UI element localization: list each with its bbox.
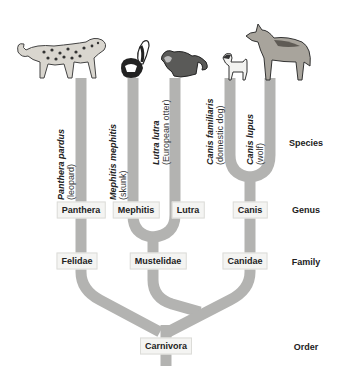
species-label-dog: Canis familiaris (domestic dog) [205, 98, 225, 165]
genus-box-lutra: Lutra [172, 202, 205, 219]
species-scientific-name: Lutra lutra [151, 99, 161, 165]
wolf-icon [244, 22, 316, 84]
leopard-icon [14, 34, 114, 82]
skunk-icon [117, 38, 153, 80]
family-box-canidae: Canidae [222, 253, 267, 270]
family-box-mustelidae: Mustelidae [130, 253, 187, 270]
species-common-name: (European otter) [161, 99, 171, 165]
otter-icon [158, 48, 212, 80]
genus-box-canis: Canis [233, 202, 268, 219]
species-common-name: (leopard) [66, 129, 76, 200]
rank-label-order: Order [294, 342, 319, 352]
species-common-name: (wolf) [255, 114, 265, 165]
species-label-skunk: Mephitis mephitis (skunk) [108, 124, 128, 200]
species-label-leopard: Panthera pardus (leopard) [56, 129, 76, 200]
rank-label-family: Family [292, 257, 321, 267]
rank-label-genus: Genus [292, 205, 320, 215]
species-label-wolf: Canis lupus (wolf) [245, 114, 265, 165]
species-common-name: (domestic dog) [215, 98, 225, 165]
species-scientific-name: Mephitis mephitis [108, 124, 118, 200]
species-scientific-name: Canis familiaris [205, 98, 215, 165]
species-label-otter: Lutra lutra (European otter) [151, 99, 171, 165]
order-box-carnivora: Carnivora [140, 338, 192, 355]
species-common-name: (skunk) [118, 124, 128, 200]
species-scientific-name: Panthera pardus [56, 129, 66, 200]
genus-box-panthera: Panthera [57, 202, 106, 219]
rank-label-species: Species [289, 138, 323, 148]
branch-mustelidae [153, 237, 200, 312]
family-box-felidae: Felidae [56, 253, 97, 270]
species-scientific-name: Canis lupus [245, 114, 255, 165]
genus-box-mephitis: Mephitis [113, 202, 160, 219]
